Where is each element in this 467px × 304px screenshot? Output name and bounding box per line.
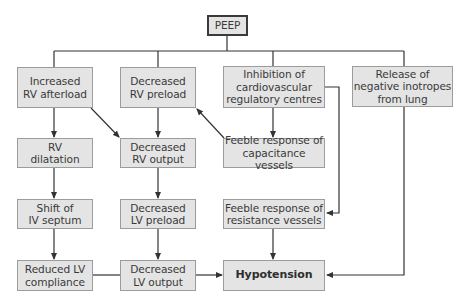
node-decreased-rv-preload: Decreased RV preload [120, 67, 196, 108]
node-increased-rv-afterload: Increased RV afterload [17, 67, 93, 108]
node-reduced-lv-compliance: Reduced LV compliance [17, 260, 93, 291]
arrow-afterload-to-rv-output [91, 108, 119, 137]
node-release-negative-inotropes: Release of negative inotropes from lung [352, 66, 453, 107]
peep-hypotension-flowchart: PEEP Increased RV afterload Decreased RV… [0, 0, 467, 304]
arrow-inhibition-to-resistance [325, 87, 339, 213]
node-feeble-resistance-vessels: Feeble response of resistance vessels [223, 199, 325, 229]
node-feeble-capacitance-vessels: Feeble response of capacitance vessels [223, 138, 325, 168]
node-decreased-lv-output: Decreased LV output [120, 260, 196, 291]
arrow-capacitance-to-rv-preload [197, 109, 224, 138]
node-decreased-rv-output: Decreased RV output [120, 138, 196, 168]
node-shift-iv-septum: Shift of IV septum [17, 199, 93, 229]
node-hypotension: Hypotension [223, 260, 325, 291]
node-peep: PEEP [207, 15, 248, 36]
node-inhibition-cardiovascular-centres: Inhibition of cardiovascular regulatory … [223, 66, 325, 108]
node-rv-dilatation: RV dilatation [17, 138, 93, 168]
node-decreased-lv-preload: Decreased LV preload [120, 199, 196, 229]
